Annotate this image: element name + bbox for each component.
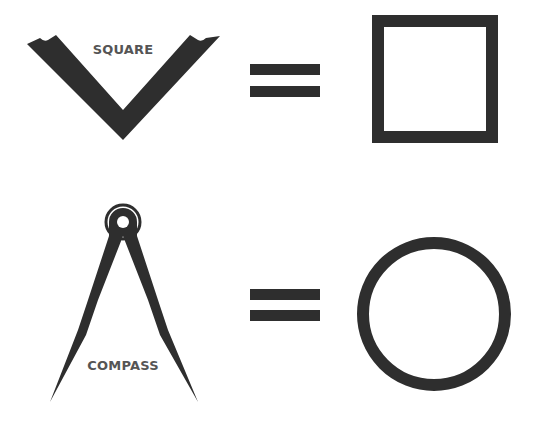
equals-icon-bottom xyxy=(250,289,320,321)
circle-shape-icon xyxy=(363,243,505,385)
diagram-canvas xyxy=(0,0,537,431)
compass-tool-label: COMPASS xyxy=(87,358,158,373)
square-shape-icon xyxy=(378,21,492,137)
equals-icon-top xyxy=(250,64,320,97)
square-tool-label: SQUARE xyxy=(93,42,154,57)
